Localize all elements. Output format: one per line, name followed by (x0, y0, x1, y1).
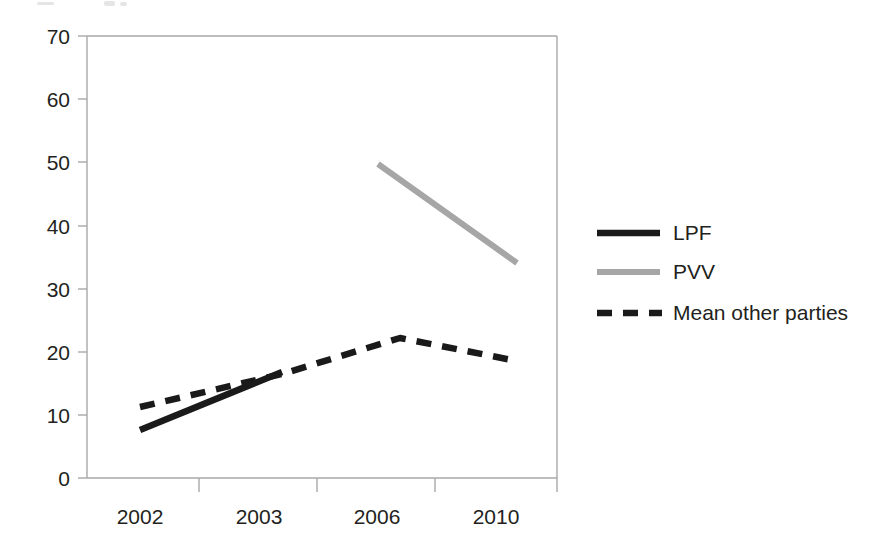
series-group (140, 164, 517, 430)
series-line-lpf (140, 372, 282, 430)
x-tick-label-2010: 2010 (473, 505, 520, 528)
y-tick-label-70: 70 (47, 25, 70, 48)
legend-item-pvv[interactable]: PVV (597, 260, 715, 283)
y-axis-labels: 70 60 50 40 30 20 10 0 (47, 25, 70, 490)
y-tick-label-60: 60 (47, 88, 70, 111)
line-chart: 70 60 50 40 30 20 10 0 2002 2003 2006 20… (0, 0, 879, 553)
series-line-mean-other-parties (140, 338, 517, 407)
y-axis-ticks (78, 36, 87, 478)
chart-legend: LPF PVV Mean other parties (597, 221, 848, 324)
x-axis-ticks (199, 478, 557, 492)
x-tick-label-2006: 2006 (354, 505, 401, 528)
y-tick-label-20: 20 (47, 341, 70, 364)
legend-label-mean-other-parties: Mean other parties (673, 301, 848, 324)
series-line-pvv (378, 164, 517, 263)
x-axis-labels: 2002 2003 2006 2010 (117, 505, 520, 528)
y-tick-label-30: 30 (47, 278, 70, 301)
y-tick-label-0: 0 (58, 467, 70, 490)
legend-label-pvv: PVV (673, 260, 715, 283)
legend-item-lpf[interactable]: LPF (597, 221, 712, 244)
y-tick-label-10: 10 (47, 404, 70, 427)
y-tick-label-50: 50 (47, 151, 70, 174)
x-tick-label-2003: 2003 (236, 505, 283, 528)
y-tick-label-40: 40 (47, 215, 70, 238)
cropped-text-artifact (37, 1, 127, 6)
legend-item-mean-other-parties[interactable]: Mean other parties (597, 301, 848, 324)
plot-frame (87, 36, 557, 478)
x-tick-label-2002: 2002 (117, 505, 164, 528)
legend-label-lpf: LPF (673, 221, 712, 244)
